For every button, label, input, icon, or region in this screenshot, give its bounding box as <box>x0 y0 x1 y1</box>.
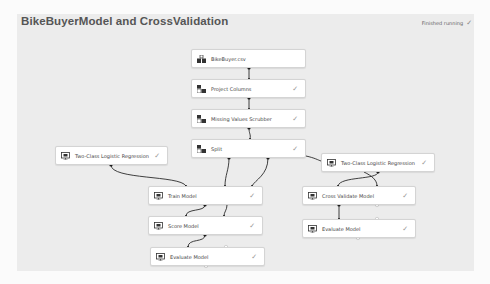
model-icon <box>327 159 336 167</box>
module-label: Evaluate Model <box>322 226 402 232</box>
data-transform-icon <box>197 115 206 123</box>
checkmark-icon: ✓ <box>154 152 160 160</box>
module-label: Two-Class Logistic Regression <box>341 160 421 166</box>
checkmark-icon: ✓ <box>249 222 255 230</box>
checkmark-icon: ✓ <box>292 145 298 153</box>
model-icon <box>154 222 163 230</box>
model-icon <box>61 152 70 160</box>
module-label: Split <box>211 146 292 152</box>
checkmark-icon: ✓ <box>402 192 408 200</box>
checkmark-icon: ✓ <box>402 225 408 233</box>
module-label: Project Columns <box>211 86 292 92</box>
module-score-model[interactable]: Score Model ✓ <box>148 216 263 235</box>
checkmark-icon: ✓ <box>292 85 298 93</box>
model-icon <box>308 225 317 233</box>
module-label: Two-Class Logistic Regression <box>75 153 154 159</box>
checkmark-icon: ✓ <box>466 19 472 27</box>
module-two-class-logistic-regression-left[interactable]: Two-Class Logistic Regression ✓ <box>55 146 168 165</box>
experiment-title: BikeBuyerModel and CrossValidation <box>21 15 228 27</box>
module-evaluate-model-right[interactable]: Evaluate Model ✓ <box>302 219 416 238</box>
checkmark-icon: ✓ <box>251 253 257 261</box>
module-label: Cross Validate Model <box>322 193 402 199</box>
checkmark-icon: ✓ <box>421 159 427 167</box>
module-label: Train Model <box>168 193 249 199</box>
module-label: BikeBuyer.csv <box>211 56 305 62</box>
checkmark-icon: ✓ <box>249 192 255 200</box>
module-train-model[interactable]: Train Model ✓ <box>148 186 263 205</box>
dataset-icon <box>197 55 206 63</box>
model-icon <box>156 253 165 261</box>
model-icon <box>154 192 163 200</box>
module-two-class-logistic-regression-right[interactable]: Two-Class Logistic Regression ✓ <box>321 153 435 172</box>
module-bikebuyer-csv[interactable]: BikeBuyer.csv <box>191 49 306 68</box>
module-cross-validate-model[interactable]: Cross Validate Model ✓ <box>302 186 416 205</box>
run-status: Finished running ✓ <box>422 19 472 27</box>
module-missing-values-scrubber[interactable]: Missing Values Scrubber ✓ <box>191 109 306 128</box>
module-label: Missing Values Scrubber <box>211 116 292 122</box>
module-label: Score Model <box>168 223 249 229</box>
model-icon <box>308 192 317 200</box>
checkmark-icon: ✓ <box>292 115 298 123</box>
module-label: Evaluate Model <box>170 254 251 260</box>
module-split[interactable]: Split ✓ <box>191 139 306 158</box>
data-transform-icon <box>197 85 206 93</box>
module-project-columns[interactable]: Project Columns ✓ <box>191 79 306 98</box>
module-evaluate-model-left[interactable]: Evaluate Model ✓ <box>150 247 265 266</box>
data-transform-icon <box>197 145 206 153</box>
run-status-text: Finished running <box>422 20 463 26</box>
